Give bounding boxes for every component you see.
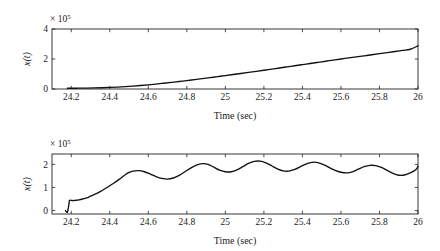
x-tick-label: 24.2 (63, 92, 80, 102)
top-x-tick-labels: 24.224.424.624.82525.225.425.625.826 (63, 92, 423, 102)
x-tick-label: 24.2 (63, 217, 80, 227)
bottom-chart-svg: × 105 24.224.424.624.82525.225.425.625.8… (0, 125, 440, 250)
y-tick-label: 2 (43, 54, 48, 64)
x-tick-label: 25.8 (371, 92, 388, 102)
top-exponent-label: × 105 (50, 13, 71, 25)
bottom-y-tick-labels: 012 (43, 160, 48, 216)
chart-panel-bottom: × 105 24.224.424.624.82525.225.425.625.8… (0, 125, 440, 250)
x-tick-label: 24.6 (140, 92, 157, 102)
y-tick-label: 4 (43, 24, 48, 34)
bottom-exponent-power: 5 (67, 138, 71, 145)
x-tick-label: 25.8 (371, 217, 388, 227)
bottom-exponent-label: × 105 (50, 138, 71, 150)
top-exponent-prefix: × 10 (50, 14, 67, 24)
svg-text:× 105: × 105 (50, 138, 71, 150)
x-tick-label: 25.2 (256, 217, 273, 227)
x-tick-label: 25.2 (256, 92, 273, 102)
bottom-exponent-prefix: × 10 (50, 139, 67, 149)
bottom-axes-frame (52, 154, 418, 214)
bottom-x-axis-title: Time (sec) (214, 235, 257, 247)
x-tick-label: 24.6 (140, 217, 157, 227)
x-tick-label: 24.4 (101, 92, 118, 102)
y-tick-label: 2 (43, 160, 48, 170)
bottom-tick-marks (52, 154, 418, 214)
top-chart-svg: × 105 24.224.424.624.82525.225.425.625.8… (0, 0, 440, 125)
bottom-x-tick-labels: 24.224.424.624.82525.225.425.625.826 (63, 217, 423, 227)
x-tick-label: 25.6 (333, 217, 350, 227)
bottom-data-curve (65, 161, 418, 212)
x-tick-label: 24.8 (179, 217, 196, 227)
top-y-axis-title: x(t) (21, 51, 33, 67)
x-tick-label: 26 (413, 217, 423, 227)
top-y-tick-labels: 024 (43, 24, 48, 94)
y-tick-label: 1 (43, 183, 48, 193)
x-tick-label: 26 (413, 92, 423, 102)
svg-text:× 105: × 105 (50, 13, 71, 25)
top-axes-frame (52, 29, 418, 89)
x-tick-label: 24.8 (179, 92, 196, 102)
plot-box (52, 29, 418, 89)
x-tick-label: 25.6 (333, 92, 350, 102)
top-data-curve (67, 46, 418, 88)
x-tick-label: 25.4 (294, 217, 311, 227)
x-tick-label: 24.4 (101, 217, 118, 227)
top-tick-marks (52, 29, 418, 89)
top-exponent-power: 5 (67, 13, 71, 20)
figure-container: × 105 24.224.424.624.82525.225.425.625.8… (0, 0, 440, 251)
y-tick-label: 0 (43, 206, 48, 216)
top-x-axis-title: Time (sec) (214, 110, 257, 122)
bottom-y-axis-title: x(t) (21, 176, 33, 192)
x-tick-label: 25 (221, 217, 231, 227)
chart-panel-top: × 105 24.224.424.624.82525.225.425.625.8… (0, 0, 440, 125)
x-tick-label: 25 (221, 92, 231, 102)
plot-box (52, 154, 418, 214)
y-tick-label: 0 (43, 84, 48, 94)
x-tick-label: 25.4 (294, 92, 311, 102)
